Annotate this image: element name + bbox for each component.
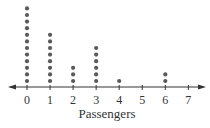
data-dot: [94, 79, 98, 83]
data-dot: [48, 79, 52, 83]
data-dot: [71, 72, 75, 76]
tick-label: 1: [47, 93, 53, 107]
data-dot: [25, 13, 29, 17]
data-dot: [71, 79, 75, 83]
data-dot: [94, 72, 98, 76]
tick-label: 2: [70, 93, 76, 107]
data-dot: [94, 46, 98, 50]
data-dot: [71, 66, 75, 70]
tick-label: 5: [139, 93, 145, 107]
right-arrow-icon: [198, 85, 206, 90]
x-axis: [8, 85, 206, 90]
tick-label: 7: [185, 93, 191, 107]
tick-label: 4: [116, 93, 122, 107]
data-dot: [25, 72, 29, 76]
dot-plot: 01234567 Passengers: [0, 0, 210, 128]
data-dot: [25, 53, 29, 57]
tick-label: 3: [93, 93, 99, 107]
data-dot: [25, 39, 29, 43]
data-dot: [94, 59, 98, 63]
x-axis-title: Passengers: [78, 106, 135, 121]
data-dot: [48, 39, 52, 43]
data-dot: [25, 20, 29, 24]
data-dot: [94, 66, 98, 70]
left-arrow-icon: [8, 85, 16, 90]
data-dot: [48, 59, 52, 63]
data-dot: [48, 53, 52, 57]
data-dot: [25, 6, 29, 10]
tick-label: 6: [162, 93, 168, 107]
dot-series: [25, 6, 168, 83]
data-dot: [94, 53, 98, 57]
data-dot: [25, 46, 29, 50]
data-dot: [25, 26, 29, 30]
tick-label: 0: [24, 93, 30, 107]
data-dot: [25, 79, 29, 83]
data-dot: [48, 72, 52, 76]
tick-labels: 01234567: [24, 93, 191, 107]
data-dot: [117, 79, 121, 83]
data-dot: [163, 72, 167, 76]
data-dot: [48, 33, 52, 37]
data-dot: [25, 66, 29, 70]
data-dot: [48, 66, 52, 70]
data-dot: [48, 46, 52, 50]
data-dot: [25, 59, 29, 63]
data-dot: [163, 79, 167, 83]
data-dot: [25, 33, 29, 37]
